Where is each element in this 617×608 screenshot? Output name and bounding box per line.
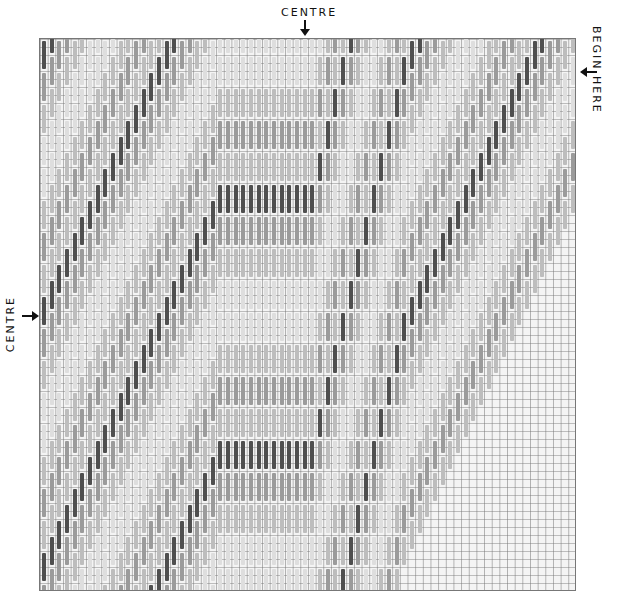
stitch-mid xyxy=(218,217,222,245)
stitch-pale xyxy=(387,217,391,245)
stitch-pale xyxy=(364,313,368,341)
stitch-light xyxy=(333,153,337,181)
stitch-pale xyxy=(218,281,222,309)
stitch-mid xyxy=(395,281,399,309)
stitch-dark xyxy=(42,553,46,581)
stitch-light xyxy=(326,38,330,53)
stitch-light xyxy=(180,425,184,453)
stitch-mid xyxy=(157,345,161,373)
stitch-mid xyxy=(533,233,537,261)
stitch-mid xyxy=(50,473,54,501)
stitch-mid xyxy=(510,38,514,53)
stitch-light xyxy=(65,313,69,341)
stitch-light xyxy=(395,569,399,591)
stitch-light xyxy=(556,57,560,85)
stitch-light xyxy=(103,233,107,261)
stitch-pale xyxy=(203,313,207,341)
stitch-pale xyxy=(280,38,284,53)
stitch-light xyxy=(218,409,222,437)
stitch-mid xyxy=(464,121,468,149)
stitch-light xyxy=(433,313,437,341)
stitch-pale xyxy=(226,281,230,309)
stitch-light xyxy=(149,41,153,69)
stitch-mid xyxy=(494,57,498,85)
stitch-mid xyxy=(494,153,498,181)
stitch-light xyxy=(326,185,330,213)
stitch-pale xyxy=(372,281,376,309)
stitch-light xyxy=(379,569,383,591)
stitch-light xyxy=(73,393,77,421)
stitch-dark xyxy=(165,553,169,581)
stitch-dark xyxy=(195,489,199,517)
stitch-pale xyxy=(157,441,161,469)
stitch-dark xyxy=(188,505,192,533)
stitch-mid xyxy=(80,505,84,533)
stitch-pale xyxy=(326,473,330,501)
stitch-mid xyxy=(50,57,54,85)
stitch-light xyxy=(287,409,291,437)
stitch-pale xyxy=(257,57,261,85)
stitch-dark xyxy=(349,281,353,309)
stitch-mid xyxy=(211,393,215,421)
stitch-mid xyxy=(73,521,77,549)
stitch-mid xyxy=(410,233,414,261)
stitch-pale xyxy=(96,38,100,53)
stitch-pale xyxy=(425,361,429,389)
stitch-light xyxy=(88,169,92,197)
stitch-light xyxy=(548,73,552,101)
stitch-light xyxy=(50,505,54,533)
stitch-light xyxy=(188,217,192,245)
stitch-light xyxy=(172,89,176,117)
stitch-dark xyxy=(287,441,291,469)
stitch-pale xyxy=(88,553,92,581)
stitch-mid xyxy=(425,297,429,325)
stitch-light xyxy=(533,265,537,293)
stitch-mid xyxy=(165,73,169,101)
stitch-light xyxy=(395,313,399,341)
stitch-light xyxy=(379,473,383,501)
stitch-light xyxy=(119,201,123,229)
stitch-pale xyxy=(73,73,77,101)
stitch-pale xyxy=(80,57,84,85)
stitch-pale xyxy=(264,281,268,309)
stitch-light xyxy=(241,505,245,533)
stitch-light xyxy=(180,489,184,517)
stitch-pale xyxy=(241,38,245,53)
centre-left-label: CENTRE xyxy=(4,296,17,352)
stitch-light xyxy=(517,233,521,261)
stitch-light xyxy=(142,409,146,437)
stitch-pale xyxy=(303,57,307,85)
stitch-pale xyxy=(249,313,253,341)
stitch-pale xyxy=(517,169,521,197)
stitch-light xyxy=(257,505,261,533)
stitch-pale xyxy=(372,537,376,565)
stitch-pale xyxy=(50,121,54,149)
stitch-light xyxy=(295,89,299,117)
stitch-light xyxy=(479,121,483,149)
stitch-mid xyxy=(103,361,107,389)
stitch-light xyxy=(257,345,261,373)
stitch-pale xyxy=(249,38,253,53)
stitch-light xyxy=(387,345,391,373)
stitch-mid xyxy=(195,169,199,197)
stitch-mid xyxy=(42,329,46,357)
stitch-pale xyxy=(241,313,245,341)
stitch-light xyxy=(234,249,238,277)
stitch-mid xyxy=(402,505,406,533)
stitch-dark xyxy=(264,441,268,469)
stitch-pale xyxy=(502,233,506,261)
stitch-pale xyxy=(333,217,337,245)
stitch-mid xyxy=(556,185,560,213)
stitch-mid xyxy=(433,441,437,469)
stitch-light xyxy=(326,345,330,373)
stitch-pale xyxy=(218,313,222,341)
stitch-mid xyxy=(172,473,176,501)
stitch-mid xyxy=(241,217,245,245)
stitch-light xyxy=(525,217,529,245)
stitch-light xyxy=(111,569,115,591)
stitch-pale xyxy=(303,313,307,341)
stitch-pale xyxy=(119,265,123,293)
stitch-pale xyxy=(295,537,299,565)
stitch-pale xyxy=(264,537,268,565)
stitch-light xyxy=(326,441,330,469)
